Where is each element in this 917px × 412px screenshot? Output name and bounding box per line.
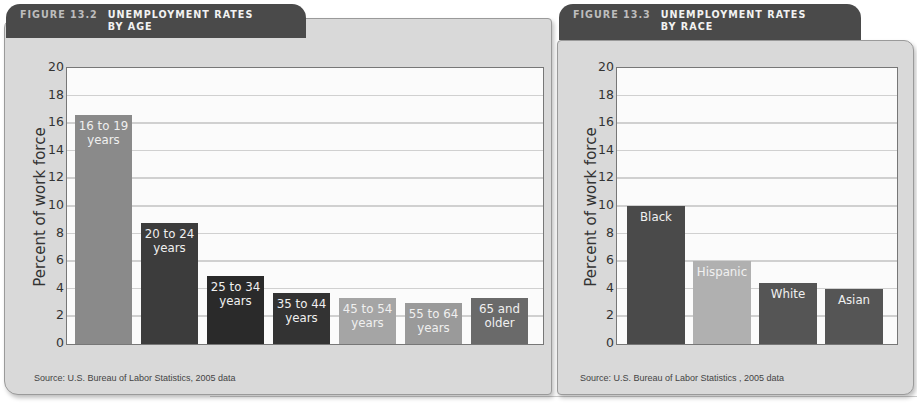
bar-label: 35 to 44years [273,293,330,325]
y-tick-label: 2 [34,307,64,322]
y-tick-label: 4 [34,280,64,295]
gridline [617,122,897,124]
y-tick-label: 12 [584,169,614,184]
bar-25-to-34-years: 25 to 34years [207,276,264,344]
bar-hispanic: Hispanic [693,261,751,344]
y-tick-label: 14 [34,142,64,157]
figure-number: FIGURE 13.3 [573,9,651,21]
y-tick-label: 20 [584,59,614,74]
y-tick-label: 6 [34,252,64,267]
gridline [67,177,543,179]
bar-45-to-54-years: 45 to 54years [339,298,396,344]
bar-black: Black [627,206,685,344]
gridline [67,150,543,152]
y-tick-label: 8 [34,225,64,240]
source-note: Source: U.S. Bureau of Labor Statistics,… [34,373,236,383]
figure-13-2-title-tab: FIGURE 13.2UNEMPLOYMENT RATESBY AGE [6,4,306,38]
figure-number: FIGURE 13.2 [20,9,98,21]
figure-title-line1: UNEMPLOYMENT RATES [661,9,807,20]
bar-label: Hispanic [693,261,751,279]
bar-white: White [759,283,817,344]
gridline [67,205,543,207]
plot-area-age: 16 to 19years20 to 24years25 to 34years3… [66,67,544,345]
y-tick-label: 16 [584,114,614,129]
bar-asian: Asian [825,289,883,344]
bar-35-to-44-years: 35 to 44years [273,293,330,344]
gridline [67,260,543,262]
gridline [67,233,543,235]
y-tick-label: 10 [34,197,64,212]
bar-label: 16 to 19years [75,115,132,147]
gridline [617,177,897,179]
bar-label: Black [627,206,685,224]
gridline [67,95,543,97]
figure-title-line2: BY RACE [661,21,713,32]
bar-label: 45 to 54years [339,298,396,330]
y-tick-label: 6 [584,252,614,267]
y-tick-label: 18 [584,87,614,102]
bar-55-to-64-years: 55 to 64years [405,303,462,344]
bar-label: 25 to 34years [207,276,264,308]
bar-label: 55 to 64years [405,303,462,335]
y-tick-label: 0 [34,335,64,350]
page-background-strip [210,396,917,412]
y-tick-label: 10 [584,197,614,212]
gridline [67,122,543,124]
y-tick-label: 20 [34,59,64,74]
y-tick-label: 18 [34,87,64,102]
bar-label: White [759,283,817,301]
y-tick-label: 14 [584,142,614,157]
bar-16-to-19-years: 16 to 19years [75,115,132,344]
bar-label: 65 andolder [471,298,528,330]
gridline [617,150,897,152]
y-tick-label: 0 [584,335,614,350]
bar-label: 20 to 24years [141,223,198,255]
bar-20-to-24-years: 20 to 24years [141,223,198,344]
gridline [67,288,543,290]
y-tick-label: 12 [34,169,64,184]
figure-13-3-title-tab: FIGURE 13.3UNEMPLOYMENT RATESBY RACE [559,4,861,40]
figure-title-line2: BY AGE [108,21,153,32]
y-tick-label: 8 [584,225,614,240]
figure-title-line1: UNEMPLOYMENT RATES [108,9,254,20]
y-tick-label: 4 [584,280,614,295]
source-note: Source: U.S. Bureau of Labor Statistics … [580,373,784,383]
bar-65-and-older: 65 andolder [471,298,528,344]
gridline [617,95,897,97]
y-tick-label: 2 [584,307,614,322]
y-tick-label: 16 [34,114,64,129]
bar-label: Asian [825,289,883,307]
plot-area-race: BlackHispanicWhiteAsian [616,67,898,345]
